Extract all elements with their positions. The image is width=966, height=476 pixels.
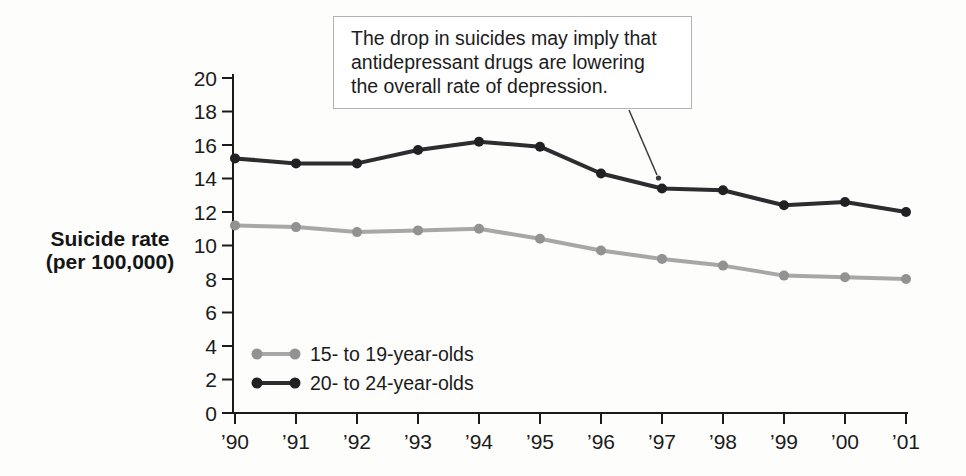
legend-marker-dot <box>252 378 263 389</box>
annotation-arrow <box>629 110 661 181</box>
legend: 15- to 19-year-olds 20- to 24-year-olds <box>252 343 474 394</box>
y-tick-label: 6 <box>205 301 217 324</box>
annotation-line2: antidepressant drugs are lowering <box>351 50 683 74</box>
data-point <box>657 184 667 194</box>
y-tick-label: 8 <box>205 268 217 291</box>
data-point <box>291 222 301 232</box>
series-15-to-19-year-olds <box>230 220 911 284</box>
annotation-line3: the overall rate of depression. <box>351 74 683 98</box>
data-point <box>596 169 606 179</box>
data-series <box>230 137 911 284</box>
data-point <box>352 227 362 237</box>
data-point <box>535 142 545 152</box>
data-point <box>779 271 789 281</box>
legend-marker-dot <box>290 378 301 389</box>
data-point <box>474 137 484 147</box>
y-tick-label: 4 <box>205 335 217 358</box>
data-point <box>779 200 789 210</box>
data-point <box>901 207 911 217</box>
x-tick-label: ’94 <box>465 430 493 453</box>
series-20-to-24-year-olds <box>230 137 911 217</box>
y-tick-label: 2 <box>205 368 217 391</box>
y-tick-label: 20 <box>194 67 217 90</box>
y-axis-title-line2: (per 100,000) <box>28 250 192 273</box>
x-tick-label: ’00 <box>831 430 859 453</box>
annotation-box: The drop in suicides may imply that anti… <box>333 16 692 109</box>
y-tick-label: 14 <box>194 167 218 190</box>
figure: 02468101214161820 ’90’91’92’93’94’95’96’… <box>0 0 966 476</box>
data-point <box>840 272 850 282</box>
data-point <box>230 153 240 163</box>
legend-label-20-24: 20- to 24-year-olds <box>310 372 474 394</box>
x-tick-label: ’93 <box>404 430 432 453</box>
x-tick-label: ’92 <box>343 430 371 453</box>
x-tick-label: ’97 <box>648 430 676 453</box>
data-point <box>352 158 362 168</box>
annotation-line1: The drop in suicides may imply that <box>351 26 683 50</box>
y-tick-label: 10 <box>194 234 217 257</box>
x-tick-label: ’90 <box>221 430 249 453</box>
x-tick-label: ’98 <box>709 430 737 453</box>
legend-marker-dot <box>290 349 301 360</box>
data-point <box>901 274 911 284</box>
data-point <box>291 158 301 168</box>
x-tick-label: ’91 <box>282 430 310 453</box>
y-tick-label: 12 <box>194 201 217 224</box>
x-tick-label: ’01 <box>892 430 920 453</box>
x-tick-label: ’95 <box>526 430 554 453</box>
data-point <box>413 225 423 235</box>
data-point <box>840 197 850 207</box>
data-point <box>596 246 606 256</box>
data-point <box>230 220 240 230</box>
annotation-arrow-line <box>629 110 657 175</box>
data-point <box>474 224 484 234</box>
annotation-arrow-tip <box>656 175 661 180</box>
data-point <box>413 145 423 155</box>
y-tick-label: 0 <box>205 402 217 425</box>
y-tick-label: 16 <box>194 134 217 157</box>
legend-label-15-19: 15- to 19-year-olds <box>310 343 474 365</box>
y-tick-label: 18 <box>194 100 217 123</box>
data-point <box>657 254 667 264</box>
y-axis-title-line1: Suicide rate <box>28 227 192 250</box>
y-axis-ticks: 02468101214161820 <box>194 67 233 425</box>
data-point <box>718 185 728 195</box>
data-point <box>718 261 728 271</box>
legend-marker-dot <box>252 349 263 360</box>
data-point <box>535 234 545 244</box>
series-line <box>235 142 906 212</box>
x-axis-ticks: ’90’91’92’93’94’95’96’97’98’99’00’01 <box>221 413 920 453</box>
x-tick-label: ’99 <box>770 430 798 453</box>
x-tick-label: ’96 <box>587 430 615 453</box>
legend-markers <box>252 349 301 389</box>
series-line <box>235 225 906 279</box>
y-axis-title: Suicide rate (per 100,000) <box>28 227 192 273</box>
